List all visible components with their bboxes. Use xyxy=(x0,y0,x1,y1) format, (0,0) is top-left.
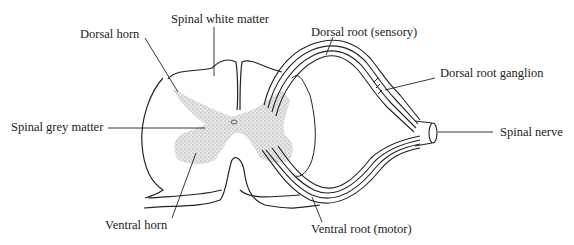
label-dorsal-root-ganglion: Dorsal root ganglion xyxy=(440,66,543,80)
label-ventral-horn: Ventral horn xyxy=(105,218,167,232)
label-spinal-grey-matter: Spinal grey matter xyxy=(11,120,103,134)
dorsal-root xyxy=(264,40,420,132)
label-dorsal-root: Dorsal root (sensory) xyxy=(311,25,417,39)
spinal-nerve-trunk xyxy=(415,121,437,146)
dorsal-root-inner-loop xyxy=(292,76,315,177)
label-ventral-root: Ventral root (motor) xyxy=(311,222,412,236)
label-spinal-nerve: Spinal nerve xyxy=(500,125,563,139)
label-dorsal-horn: Dorsal horn xyxy=(80,27,139,41)
ganglion-cells xyxy=(374,78,382,94)
label-spinal-white-matter: Spinal white matter xyxy=(171,12,269,26)
